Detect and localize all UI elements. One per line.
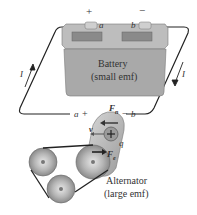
battery-terminal-a: a	[99, 21, 104, 30]
alternator-emf-label: (large emf)	[104, 189, 149, 199]
positive-terminal-icon	[85, 22, 97, 29]
diagram-graphics	[0, 0, 197, 215]
charge-label: q	[119, 139, 124, 148]
battery-plus-sign: +	[86, 6, 92, 17]
force-e-label: Fe	[107, 150, 116, 161]
alternator-terminal-a: a	[74, 110, 79, 119]
force-n-label: Fn	[109, 104, 118, 115]
battery-emf-label: (small emf)	[91, 72, 137, 82]
current-label-right: I	[182, 70, 185, 79]
current-label-left: I	[20, 70, 23, 79]
battery-terminal-b: b	[131, 21, 136, 30]
velocity-label: v	[89, 126, 93, 134]
alternator-minus-sign: −	[122, 109, 128, 119]
alternator-terminal-b: b	[131, 110, 136, 119]
alternator-plus-sign: +	[82, 109, 88, 119]
negative-terminal-icon	[139, 22, 151, 29]
alternator-label: Alternator	[106, 176, 147, 186]
battery-minus-sign: −	[139, 5, 145, 16]
circuit-diagram: + − a b Battery (small emf) I I a + − b …	[0, 0, 197, 215]
current-arrow-left-icon	[25, 64, 35, 87]
battery-label: Battery	[98, 59, 127, 69]
